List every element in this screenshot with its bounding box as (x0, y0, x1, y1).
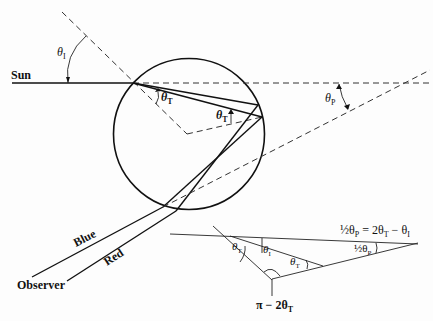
inset-theta-t-label-2: θT (290, 255, 300, 270)
refracted-ray-blue (133, 83, 262, 117)
diagram-canvas: Sun Observer Blue Red θI θT θT θP ½θP = … (0, 0, 433, 321)
inset-equation: ½θP = 2θT − θI (340, 223, 410, 239)
theta-i-label: θI (57, 45, 66, 61)
blue-ray (32, 207, 163, 277)
inset-theta-t-label-1: θT (232, 240, 242, 255)
inset-vertex-label: π − 2θT (256, 298, 294, 314)
rainbow-diagram: Sun Observer Blue Red θI θT θT θP ½θP = … (0, 0, 433, 321)
theta-p-label: θP (325, 91, 336, 107)
theta-p-arrowhead-bottom (344, 104, 350, 110)
blue-label: Blue (71, 226, 99, 249)
observer-label: Observer (17, 278, 66, 292)
theta-i-arrowhead (66, 77, 70, 83)
theta-t-entry-arc (156, 92, 159, 104)
theta-p-arrowhead-top (336, 84, 342, 89)
entry-normal (62, 12, 187, 134)
reflected-ray-b (163, 117, 262, 207)
theta-i-arc (67, 36, 86, 83)
exit-ray-extension (163, 70, 430, 207)
inset-mid-edge (230, 236, 323, 266)
red-label: Red (101, 245, 126, 268)
inset-half-theta-p-arc (376, 243, 377, 253)
refracted-ray-red (133, 83, 258, 105)
inset-theta-i-label: θI (263, 243, 271, 258)
inset-half-theta-p-label: ½θP (354, 242, 372, 257)
theta-t-reflect-label: θT (216, 108, 228, 124)
sun-label: Sun (11, 68, 31, 82)
